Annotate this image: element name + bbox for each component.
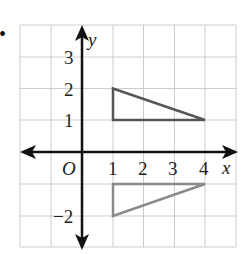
y-axis-label: y <box>86 29 97 50</box>
reflected-triangle <box>113 184 205 216</box>
y-tick-1: 1 <box>64 110 74 131</box>
x-tick-4: 4 <box>199 158 209 179</box>
x-tick-2: 2 <box>138 158 148 179</box>
original-triangle <box>113 89 205 121</box>
y-tick-3: 3 <box>64 47 74 68</box>
x-axis-label: x <box>221 157 231 178</box>
x-tick-1: 1 <box>108 158 118 179</box>
x-tick-3: 3 <box>168 158 178 179</box>
bullet: • <box>0 23 6 45</box>
y-tick-neg2: −2 <box>53 206 73 227</box>
coordinate-plane: • y x O 1 2 3 4 3 2 1 −2 <box>0 0 249 254</box>
y-tick-2: 2 <box>64 79 74 100</box>
origin-label: O <box>62 158 76 179</box>
